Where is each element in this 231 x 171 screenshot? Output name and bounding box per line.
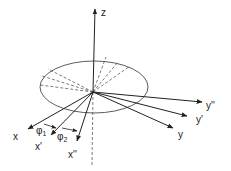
phi2-arrow xyxy=(62,128,77,131)
y-prime-label: y' xyxy=(196,114,203,125)
x-label: x xyxy=(13,131,18,142)
x-prime-axis xyxy=(51,92,93,135)
y-axis xyxy=(93,92,173,128)
phi1-label: φ1 xyxy=(36,125,46,137)
phi2-label: φ2 xyxy=(57,131,67,143)
coordinate-rotation-diagram: z x x' x'' φ1 φ2 y'' y' y xyxy=(0,0,231,171)
x-double-prime-label: x'' xyxy=(68,149,77,160)
z-label: z xyxy=(101,7,106,18)
dashed-projection-lines xyxy=(40,57,130,166)
x-prime-label: x' xyxy=(35,141,42,152)
y-double-prime-label: y'' xyxy=(206,100,215,111)
z-axis xyxy=(93,9,95,92)
y-double-prime-axis xyxy=(93,92,202,102)
y-label: y xyxy=(178,129,183,140)
phi1-arrow xyxy=(44,124,56,128)
